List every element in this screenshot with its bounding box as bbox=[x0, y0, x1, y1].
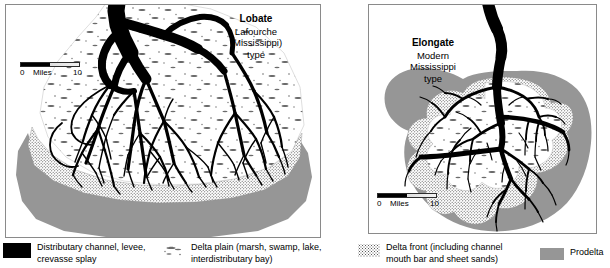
legend-line-1: Delta front (including channel bbox=[386, 242, 503, 252]
legend-text-delta-plain: Delta plain (marsh, swamp, lake, interdi… bbox=[191, 242, 322, 265]
legend-line-1: Delta plain (marsh, swamp, lake, bbox=[191, 242, 322, 252]
lobate-delta-map bbox=[6, 5, 320, 237]
legend-line-2: mouth bar and sheet sands) bbox=[386, 254, 503, 266]
legend-item-delta-front: Delta front (including channel mouth bar… bbox=[358, 242, 503, 265]
distributary-channel-swatch-icon bbox=[3, 243, 31, 258]
legend-text-distributary-channel: Distributary channel, levee, crevasse sp… bbox=[37, 242, 146, 265]
delta-front-swatch-icon bbox=[358, 244, 380, 257]
prodelta-swatch-icon bbox=[540, 248, 564, 260]
marsh-tuft-icon bbox=[163, 243, 185, 258]
scale-bar-lobate: 0 Miles 10 bbox=[20, 62, 82, 78]
legend-item-prodelta: Prodelta bbox=[540, 247, 604, 260]
legend-item-delta-plain: Delta plain (marsh, swamp, lake, interdi… bbox=[163, 242, 322, 265]
legend-line-1: Prodelta bbox=[570, 247, 604, 257]
panel-elongate-delta: 0 Miles 10 Elongate Modern Mississippi t… bbox=[368, 4, 597, 234]
scale-label-max: 10 bbox=[430, 198, 439, 209]
scale-label-unit: Miles bbox=[390, 198, 409, 209]
delta-morphology-figure: 0 Miles 10 Lobate Lafourche (Mississippi… bbox=[0, 0, 610, 268]
scale-label-unit: Miles bbox=[33, 67, 52, 78]
legend-line-2: crevasse splay bbox=[37, 254, 146, 266]
legend-text-delta-front: Delta front (including channel mouth bar… bbox=[386, 242, 503, 265]
figure-legend: Distributary channel, levee, crevasse sp… bbox=[0, 240, 610, 268]
legend-text-prodelta: Prodelta bbox=[570, 247, 604, 259]
panel-lobate-delta: 0 Miles 10 Lobate Lafourche (Mississippi… bbox=[5, 4, 321, 238]
delta-plain-swatch-icon bbox=[163, 243, 185, 258]
legend-line-2: interdistributary bay) bbox=[191, 254, 322, 266]
scale-label-min: 0 bbox=[377, 198, 381, 209]
legend-item-distributary-channel: Distributary channel, levee, crevasse sp… bbox=[3, 242, 146, 265]
scale-bar-elongate: 0 Miles 10 bbox=[377, 193, 439, 209]
scale-bar-labels: 0 Miles 10 bbox=[20, 67, 82, 78]
legend-line-1: Distributary channel, levee, bbox=[37, 242, 146, 252]
scale-bar-labels: 0 Miles 10 bbox=[377, 198, 439, 209]
scale-label-min: 0 bbox=[20, 67, 24, 78]
scale-label-max: 10 bbox=[73, 67, 82, 78]
